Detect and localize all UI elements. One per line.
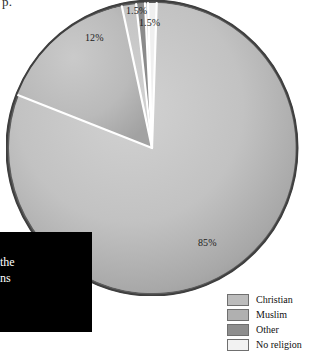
legend-item-muslim: Muslim (227, 307, 302, 322)
legend-swatch-christian (227, 294, 249, 306)
legend-item-no-religion: No religion (227, 337, 302, 352)
pie-label-muslim: 12% (85, 32, 104, 43)
legend-item-christian: Christian (227, 292, 302, 307)
pie-label-no-religion: 1.5% (139, 17, 160, 28)
chart-legend: Christian Muslim Other No religion (227, 292, 302, 352)
legend-swatch-no-religion (227, 339, 249, 351)
legend-swatch-other (227, 324, 249, 336)
caption-line-1: the (0, 255, 15, 270)
legend-label-christian: Christian (256, 294, 293, 306)
caption-line-2: ns (0, 271, 11, 286)
legend-item-other: Other (227, 322, 302, 337)
legend-label-other: Other (256, 324, 279, 336)
legend-swatch-muslim (227, 309, 249, 321)
pie-label-other: 1.5% (126, 5, 147, 16)
caption-block: the ns (0, 232, 92, 332)
pie-label-christian: 85% (198, 237, 217, 248)
legend-label-muslim: Muslim (256, 309, 287, 321)
legend-label-no-religion: No religion (256, 339, 302, 351)
page-canvas: p. (0, 0, 311, 359)
